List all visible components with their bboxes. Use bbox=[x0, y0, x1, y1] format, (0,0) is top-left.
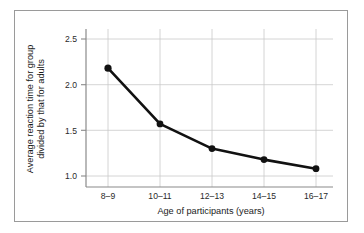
x-axis-title: Age of participants (years) bbox=[157, 206, 264, 216]
gridlines-horizontal bbox=[86, 39, 333, 176]
ytick-label-1-5: 1.5 bbox=[65, 126, 77, 136]
data-point-16-17 bbox=[313, 165, 320, 172]
line-chart: 2.5 2.0 1.5 1.0 8–9 10–11 12–13 14–15 16… bbox=[15, 11, 347, 221]
y-axis-title-line-2: divided by that for adults bbox=[36, 59, 46, 159]
xtick-label-12-13: 12–13 bbox=[200, 191, 224, 201]
figure-frame: 2.5 2.0 1.5 1.0 8–9 10–11 12–13 14–15 16… bbox=[14, 10, 348, 222]
figure-root: 2.5 2.0 1.5 1.0 8–9 10–11 12–13 14–15 16… bbox=[0, 0, 364, 233]
xtick-label-8-9: 8–9 bbox=[101, 191, 116, 201]
xtick-label-14-15: 14–15 bbox=[252, 191, 276, 201]
data-point-14-15 bbox=[261, 156, 268, 163]
ytick-label-1-0: 1.0 bbox=[65, 171, 77, 181]
data-point-8-9 bbox=[104, 65, 111, 72]
y-axis-title-line-1: Average reaction time for group bbox=[25, 45, 35, 174]
y-tickmarks bbox=[81, 39, 86, 176]
ytick-label-2-0: 2.0 bbox=[65, 80, 77, 90]
xtick-label-10-11: 10–11 bbox=[148, 191, 171, 201]
ytick-label-2-5: 2.5 bbox=[65, 34, 77, 44]
data-point-12-13 bbox=[209, 145, 216, 152]
xtick-label-16-17: 16–17 bbox=[304, 191, 328, 201]
data-point-10-11 bbox=[157, 121, 164, 128]
